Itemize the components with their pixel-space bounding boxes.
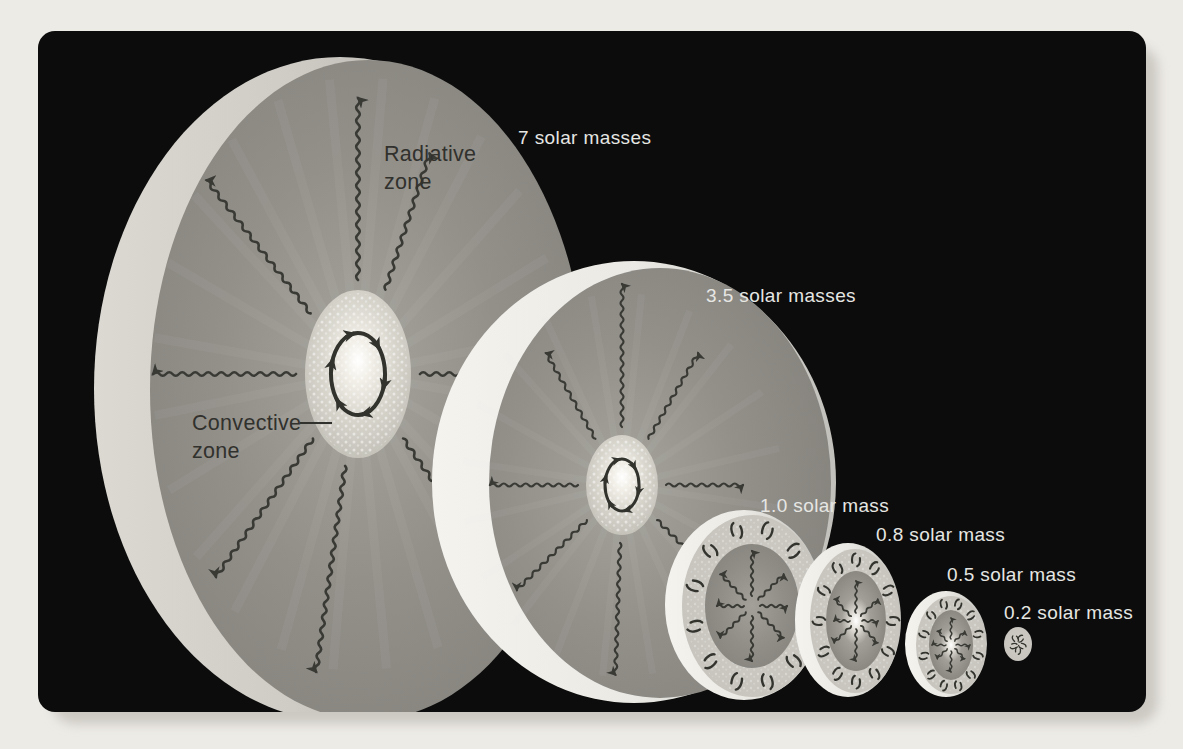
radiation-wave-path <box>950 618 952 639</box>
fully-convective-star <box>1004 627 1032 661</box>
radiation-wave-arrow <box>950 618 952 639</box>
radiation-wave-arrow <box>717 605 744 607</box>
radiation-wave-arrow <box>760 605 787 607</box>
stellar-structure-figure: Radiative zone Convective zone <box>0 0 1183 749</box>
star-mass-label-3-5: 3.5 solar masses <box>706 285 856 306</box>
radiative-core <box>705 544 799 668</box>
radiation-wave-path <box>950 651 952 672</box>
radiation-wave-path <box>717 605 744 607</box>
convective-zone-label-line2: zone <box>192 439 240 463</box>
star-mass-label-7: 7 solar masses <box>518 127 651 148</box>
star-0-8-solar-mass <box>795 543 901 697</box>
convective-zone-label-line1: Convective <box>192 411 301 435</box>
star-mass-label-0-2: 0.2 solar mass <box>1004 602 1133 623</box>
star-mass-label-1-0: 1.0 solar mass <box>760 495 889 516</box>
star-0-5-solar-mass <box>905 591 987 697</box>
star-mass-label-0-8: 0.8 solar mass <box>876 524 1005 545</box>
radiation-wave-path <box>760 605 787 607</box>
radiative-zone-label-line1: Radiative <box>384 142 476 166</box>
radiative-zone-label-line2: zone <box>384 170 432 194</box>
star-0-2-solar-mass <box>1004 627 1032 661</box>
radiation-wave-arrow <box>950 651 952 672</box>
page-background: Radiative zone Convective zone <box>0 0 1183 749</box>
star-mass-label-0-5: 0.5 solar mass <box>947 564 1076 585</box>
